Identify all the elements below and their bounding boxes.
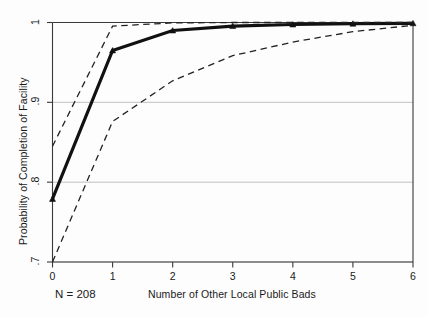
x-tick-label: 5: [341, 270, 365, 282]
x-axis-title: Number of Other Local Public Bads: [148, 288, 316, 300]
x-tick-label: 0: [41, 270, 65, 282]
x-tick-label: 4: [281, 270, 305, 282]
series-line-0: [53, 23, 414, 199]
gridlines: [53, 23, 414, 263]
data-series: [50, 20, 417, 262]
sample-size-annotation: N = 208: [55, 288, 96, 300]
plot-frame: [53, 23, 414, 263]
y-tick-label: .7: [29, 250, 41, 272]
y-axis-title: Probability of Completion of Facility: [17, 77, 29, 245]
x-tick-label: 6: [401, 270, 425, 282]
x-tick-label: 3: [221, 270, 245, 282]
x-tick-label: 2: [161, 270, 185, 282]
y-tick-label: .8: [29, 170, 41, 192]
y-tick-label: .9: [29, 90, 41, 112]
series-line-1: [53, 23, 414, 147]
series-line-2: [53, 25, 414, 262]
chart-figure: Probability of Completion of Facility Nu…: [0, 0, 428, 317]
y-tick-label: 1: [29, 11, 41, 33]
x-tick-label: 1: [101, 270, 125, 282]
